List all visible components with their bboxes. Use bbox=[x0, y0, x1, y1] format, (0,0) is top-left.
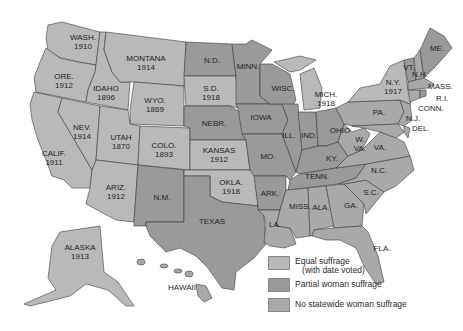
state-hi-3 bbox=[174, 269, 182, 273]
state-ks bbox=[190, 140, 250, 170]
state-fl bbox=[312, 226, 384, 284]
state-hi-big bbox=[196, 284, 212, 302]
state-de bbox=[404, 126, 410, 138]
state-pa bbox=[336, 100, 404, 126]
legend-swatch-equal bbox=[268, 256, 290, 270]
legend-label-none: No statewide woman suffrage bbox=[295, 300, 407, 309]
state-co bbox=[138, 126, 190, 170]
state-ak bbox=[24, 226, 134, 306]
state-ne bbox=[184, 106, 246, 140]
state-ct bbox=[408, 90, 420, 102]
state-nm bbox=[134, 165, 184, 226]
state-az bbox=[86, 160, 138, 222]
legend-swatch-none bbox=[268, 298, 290, 312]
state-nd bbox=[184, 42, 236, 76]
state-wy bbox=[130, 82, 184, 126]
legend-swatch-partial bbox=[268, 278, 290, 292]
state-mi bbox=[300, 68, 322, 110]
state-hi-2 bbox=[160, 264, 168, 268]
state-ia bbox=[236, 104, 288, 134]
state-sd bbox=[184, 76, 238, 108]
state-ri bbox=[420, 90, 426, 98]
legend-label-partial: Partial woman suffrage bbox=[295, 280, 382, 289]
state-hi-1 bbox=[137, 259, 145, 265]
state-ar bbox=[254, 176, 286, 210]
state-ny bbox=[348, 60, 412, 104]
state-me bbox=[420, 28, 452, 78]
state-hi-4 bbox=[185, 271, 193, 277]
us-suffrage-map bbox=[0, 0, 463, 331]
legend-label-equal: Equal suffrage (with date voted) bbox=[295, 257, 365, 275]
